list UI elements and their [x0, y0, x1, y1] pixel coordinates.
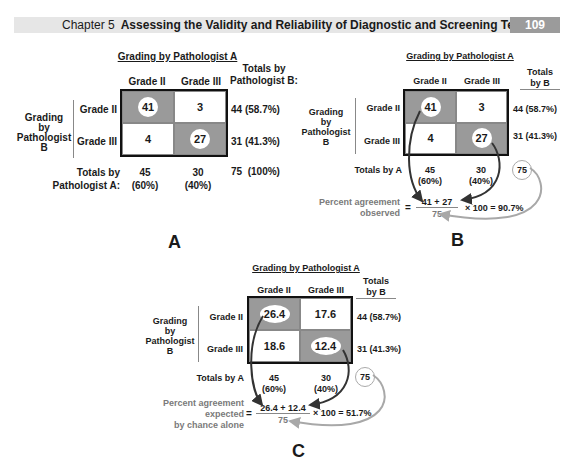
arrows-overlay: [0, 0, 578, 468]
arrow-icon: [310, 350, 349, 405]
arrow-icon: [440, 168, 541, 219]
arrow-icon: [251, 316, 263, 405]
arrow-icon: [290, 375, 385, 425]
arrow-icon: [409, 111, 422, 201]
arrow-icon: [462, 143, 500, 200]
